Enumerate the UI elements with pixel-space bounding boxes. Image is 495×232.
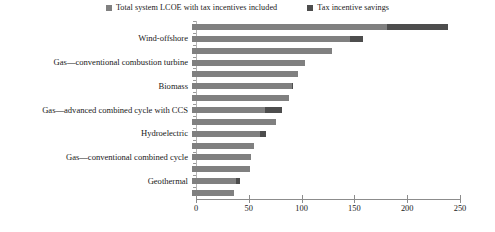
category-label: Hydroelectric xyxy=(0,129,192,138)
lcoe-bar-chart: Total system LCOE with tax incentives in… xyxy=(0,0,495,232)
bar-row xyxy=(0,140,495,152)
bar-track xyxy=(192,92,495,104)
bar-segment-tax-savings xyxy=(260,131,266,137)
square-swatch-icon xyxy=(106,5,112,11)
bar-row: Gas—conventional combined cycle xyxy=(0,152,495,164)
bar-track xyxy=(192,128,495,140)
category-tick xyxy=(193,33,196,34)
axis-tick xyxy=(354,199,355,203)
stacked-bar xyxy=(192,24,448,30)
stacked-bar xyxy=(192,166,250,172)
category-tick xyxy=(193,140,196,141)
stacked-bar xyxy=(192,48,332,54)
bar-track xyxy=(192,104,495,116)
bar-track xyxy=(192,68,495,80)
bar-segment-total-lcoe xyxy=(192,131,260,137)
stacked-bar xyxy=(192,178,240,184)
axis-tick-upper xyxy=(354,195,355,199)
bar-track xyxy=(192,140,495,152)
category-tick xyxy=(193,175,196,176)
bar-track xyxy=(192,21,495,33)
legend-label-total-lcoe: Total system LCOE with tax incentives in… xyxy=(116,4,277,12)
bar-segment-tax-savings xyxy=(350,36,363,42)
bar-row: Biomass xyxy=(0,80,495,92)
category-label: Wind-offshore xyxy=(0,34,192,43)
stacked-bar xyxy=(192,119,276,125)
bar-track xyxy=(192,80,495,92)
axis-tick-label: 200 xyxy=(401,205,414,213)
bar-row: Gas—conventional combustion turbine xyxy=(0,57,495,69)
bar-segment-total-lcoe xyxy=(192,24,387,30)
bar-track xyxy=(192,33,495,45)
bar-rows: Wind-offshoreGas—conventional combustion… xyxy=(0,21,495,199)
bar-row: Geothermal xyxy=(0,175,495,187)
category-tick xyxy=(193,80,196,81)
bar-row: Hydroelectric xyxy=(0,128,495,140)
stacked-bar xyxy=(192,95,289,101)
axis-tick xyxy=(302,199,303,203)
bar-segment-tax-savings xyxy=(236,178,239,184)
bar-segment-total-lcoe xyxy=(192,36,350,42)
plot-area: Wind-offshoreGas—conventional combustion… xyxy=(0,21,495,232)
axis-tick-label: 0 xyxy=(194,205,198,213)
stacked-bar xyxy=(192,107,282,113)
bar-row xyxy=(0,68,495,80)
axis-tick-upper xyxy=(302,195,303,199)
category-tick xyxy=(193,187,196,188)
value-axis-line xyxy=(196,199,461,200)
bar-row: Wind-offshore xyxy=(0,33,495,45)
bar-track xyxy=(192,152,495,164)
category-label: Gas—conventional combined cycle xyxy=(0,153,192,162)
bar-track xyxy=(192,163,495,175)
bar-track xyxy=(192,57,495,69)
bar-row xyxy=(0,116,495,128)
bar-segment-total-lcoe xyxy=(192,71,298,77)
bar-row xyxy=(0,92,495,104)
bar-segment-tax-savings xyxy=(265,107,282,113)
bar-segment-total-lcoe xyxy=(192,154,251,160)
bar-track xyxy=(192,116,495,128)
category-label: Gas—conventional combustion turbine xyxy=(0,58,192,67)
stacked-bar xyxy=(192,131,266,137)
legend-label-tax-savings: Tax incentive savings xyxy=(317,4,389,12)
category-tick xyxy=(193,116,196,117)
bar-track xyxy=(192,45,495,57)
axis-tick-upper xyxy=(249,195,250,199)
category-tick xyxy=(193,57,196,58)
category-tick xyxy=(193,21,196,22)
bar-segment-total-lcoe xyxy=(192,143,254,149)
bar-segment-total-lcoe xyxy=(192,119,276,125)
bar-segment-total-lcoe xyxy=(192,95,289,101)
bar-segment-total-lcoe xyxy=(192,190,234,196)
category-label: Geothermal xyxy=(0,177,192,186)
bar-segment-tax-savings xyxy=(292,83,293,89)
legend-entry-tax-savings: Tax incentive savings xyxy=(307,4,389,12)
category-tick xyxy=(193,92,196,93)
bar-segment-tax-savings xyxy=(387,24,447,30)
legend-entry-total-lcoe: Total system LCOE with tax incentives in… xyxy=(106,4,277,12)
bar-track xyxy=(192,187,495,199)
axis-tick xyxy=(407,199,408,203)
category-tick xyxy=(193,68,196,69)
axis-tick-label: 250 xyxy=(454,205,467,213)
bar-row xyxy=(0,45,495,57)
axis-tick xyxy=(196,199,197,203)
stacked-bar xyxy=(192,83,293,89)
axis-tick-upper xyxy=(407,195,408,199)
bar-row xyxy=(0,163,495,175)
bar-segment-total-lcoe xyxy=(192,83,292,89)
axis-tick xyxy=(460,199,461,203)
bar-segment-total-lcoe xyxy=(192,178,236,184)
stacked-bar xyxy=(192,36,363,42)
category-label: Biomass xyxy=(0,82,192,91)
bar-row xyxy=(0,21,495,33)
bar-segment-total-lcoe xyxy=(192,60,305,66)
square-swatch-icon xyxy=(307,5,313,11)
axis-tick xyxy=(249,199,250,203)
axis-tick-upper xyxy=(196,195,197,199)
stacked-bar xyxy=(192,143,254,149)
axis-tick-label: 100 xyxy=(295,205,308,213)
bar-row: Gas—advanced combined cycle with CCS xyxy=(0,104,495,116)
stacked-bar xyxy=(192,190,234,196)
bar-track xyxy=(192,175,495,187)
